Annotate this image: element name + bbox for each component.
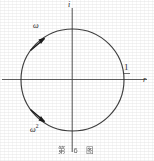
point-label-one: 1 — [124, 63, 129, 72]
point-label-omega-squared: ω2 — [30, 124, 38, 134]
point-label-omega: ω — [33, 22, 39, 30]
axis-label-real: r — [143, 76, 146, 84]
omega-squared-marker — [31, 110, 46, 123]
omega-exponent: 2 — [36, 123, 39, 129]
axis-label-imaginary: i — [68, 1, 70, 9]
omega-marker — [31, 38, 46, 51]
complex-plane-figure — [0, 0, 154, 161]
figure-caption: 第 6 图 — [0, 147, 154, 155]
